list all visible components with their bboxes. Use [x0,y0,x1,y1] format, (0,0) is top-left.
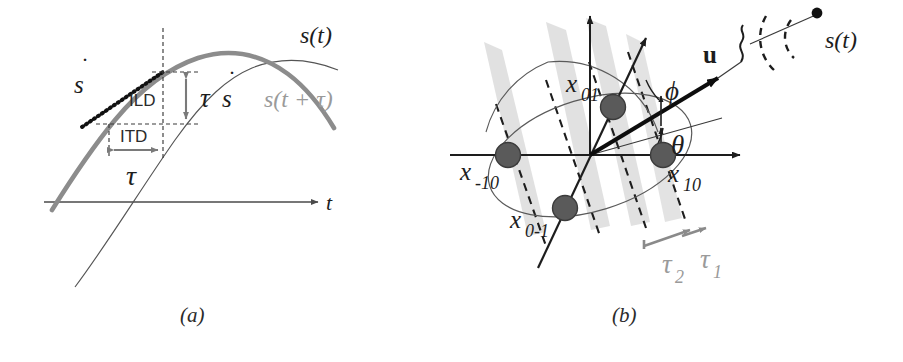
label-ild: ILD [129,91,155,110]
source-arc-outer [760,16,774,70]
label-phi: ϕ [665,76,679,106]
wave-bands [484,18,682,236]
label-x10-base: x [667,160,679,187]
delayed-curve-s-of-t-plus-tau [52,53,334,210]
label-source-s-of-t: s(t) [825,27,857,53]
label-s-of-t-plus-tau: s(t + τ) [264,86,333,112]
sensor-point-x-minus10 [496,143,521,168]
label-tau2-base: τ [662,249,673,279]
panel-b-diagram: x 01 x -10 x 0-1 x 10 u ϕ θ τ 2 τ 1 s( [450,0,903,362]
label-tau-sdot-overdot: ˙ [228,66,236,92]
label-tau-sdot-tau: τ [200,83,211,113]
label-x01-sub: 01 [581,85,599,105]
label-x-minus10-sub: -10 [475,173,499,193]
label-x01-base: x [565,70,577,97]
label-theta: θ [671,130,684,160]
label-tau1-base: τ [700,244,711,274]
label-tau: τ [126,160,137,191]
label-x0-minus1-sub: 0-1 [525,221,549,241]
tau2-arrow [644,230,690,246]
label-tau1-sub: 1 [713,262,722,282]
label-vector-u: u [703,41,717,68]
label-tau2-sub: 2 [675,267,684,287]
axis-label-t: t [326,190,333,215]
sensor-point-x0-minus1 [553,196,578,221]
label-x0-minus1-base: x [509,206,521,233]
label-x-minus10-base: x [459,158,471,185]
source-ray [718,14,818,78]
tau-dimension-arrows [644,228,706,249]
label-sdot-overdot: ˙ [81,53,89,79]
source-point [812,8,823,19]
sensor-point-x01 [601,95,626,120]
caption-panel-b: (b) [612,303,637,328]
label-itd: ITD [120,127,147,146]
source-wavefront-arcs [760,16,794,70]
figure-root: t s ˙ [0,0,903,362]
label-s-of-t: s(t) [300,22,332,48]
caption-panel-a: (a) [180,303,205,328]
panel-a-diagram: t s ˙ [0,0,450,362]
label-x10-sub: 10 [683,175,701,195]
